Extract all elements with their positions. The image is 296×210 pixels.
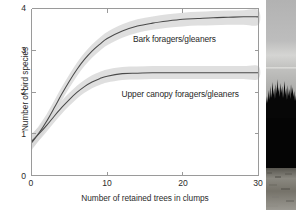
xtick-label-0: 0 — [18, 178, 44, 188]
xtick-label-10: 10 — [94, 178, 120, 188]
series-label-upper-canopy-foragers: Upper canopy foragers/gleaners — [122, 89, 239, 99]
ytick-label-4: 4 — [4, 3, 26, 13]
forest-photograph-panel — [266, 0, 296, 210]
x-axis-title: Number of retained trees in clumps — [31, 193, 259, 203]
bird-species-chart-panel: 0 1 2 3 4 0 10 20 30 Number of bird spec… — [0, 0, 263, 210]
xtick-label-20: 20 — [170, 178, 196, 188]
forest-treeline-photograph — [266, 0, 296, 210]
y-axis-title: Number of bird species — [20, 13, 30, 165]
confidence-bands-group — [32, 9, 261, 150]
confidence-band-0 — [32, 9, 261, 150]
figure-container: 0 1 2 3 4 0 10 20 30 Number of bird spec… — [0, 0, 296, 210]
confidence-band-1 — [32, 65, 261, 149]
series-label-bark-foragers: Bark foragers/gleaners — [133, 34, 216, 44]
photo-haze-band — [266, 67, 296, 69]
photo-forest-mass — [266, 118, 296, 170]
